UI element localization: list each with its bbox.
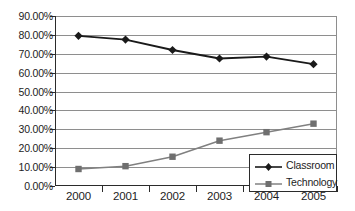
data-point-marker bbox=[168, 46, 176, 54]
data-point-marker bbox=[216, 137, 222, 143]
series-classroom bbox=[74, 32, 317, 69]
data-point-marker bbox=[309, 60, 317, 68]
chart-legend: Classroom Technology bbox=[249, 154, 337, 192]
legend-marker-square-icon bbox=[255, 176, 282, 188]
data-point-marker bbox=[310, 120, 316, 126]
data-point-marker bbox=[74, 32, 82, 40]
legend-marker-diamond-icon bbox=[255, 159, 282, 171]
data-point-marker bbox=[121, 36, 129, 44]
data-point-marker bbox=[122, 163, 128, 169]
series-line bbox=[79, 36, 314, 64]
data-point-marker bbox=[263, 129, 269, 135]
data-point-marker bbox=[75, 166, 81, 172]
legend-label-classroom: Classroom bbox=[286, 159, 334, 171]
data-point-marker bbox=[215, 54, 223, 62]
legend-entry-technology: Technology bbox=[255, 174, 337, 190]
line-chart: 90.00%80.00%70.00%60.00%50.00%40.00%30.0… bbox=[0, 0, 355, 211]
legend-entry-classroom: Classroom bbox=[255, 157, 334, 173]
data-point-marker bbox=[169, 154, 175, 160]
data-point-marker bbox=[262, 53, 270, 61]
legend-label-technology: Technology bbox=[286, 176, 337, 188]
